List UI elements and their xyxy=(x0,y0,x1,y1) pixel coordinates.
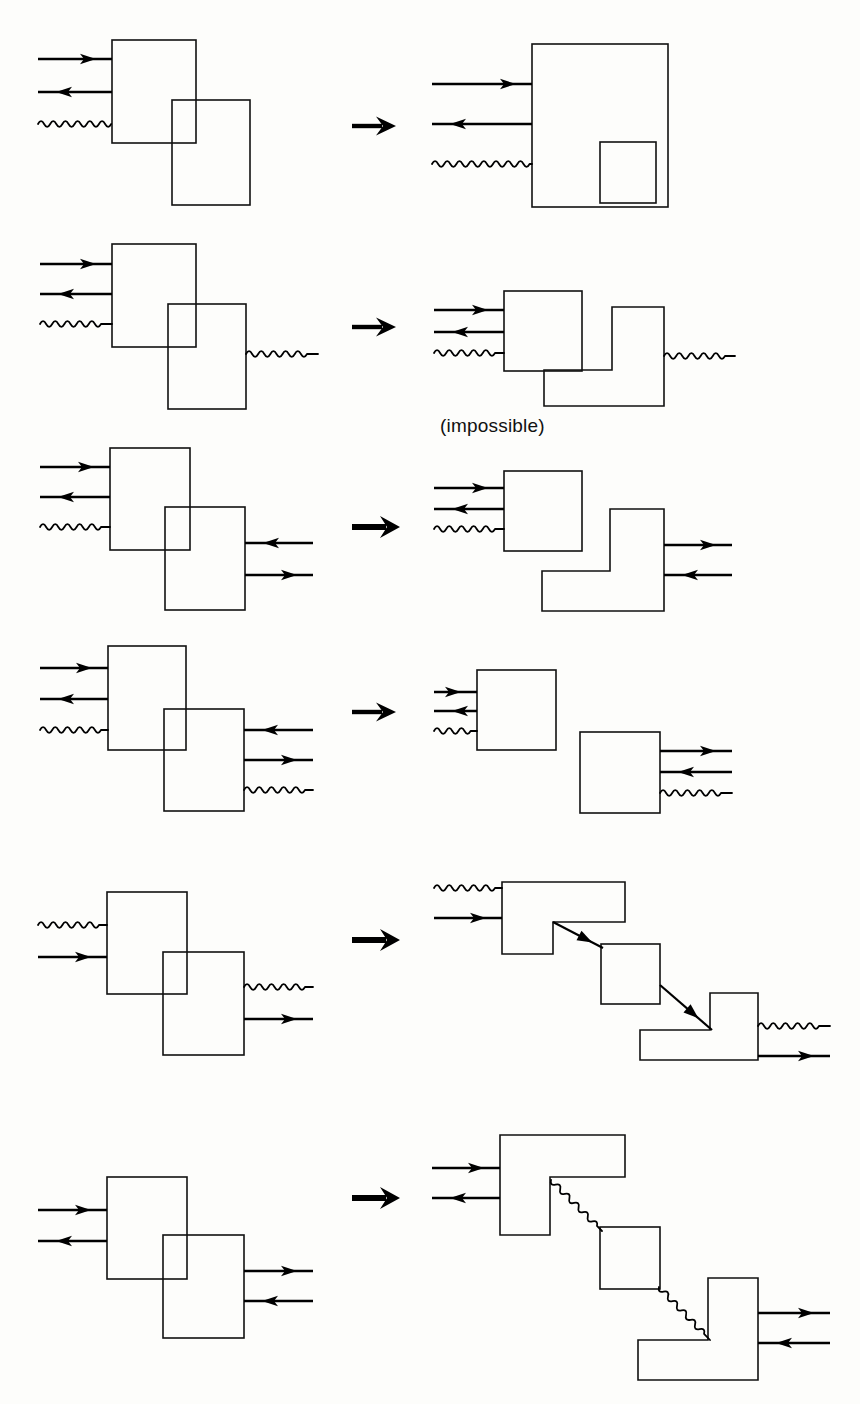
input-wave xyxy=(38,922,107,928)
first-square xyxy=(477,670,556,750)
upper-box xyxy=(108,646,186,750)
output-wave xyxy=(660,790,732,796)
square-box xyxy=(504,471,582,551)
row-3 xyxy=(40,448,732,611)
lower-box xyxy=(163,1235,244,1338)
inner-box xyxy=(600,142,656,203)
output-wave xyxy=(244,984,313,990)
input-wave xyxy=(434,885,502,891)
input-wave xyxy=(434,526,504,532)
row-3-right-diagram xyxy=(434,471,732,611)
input-wave xyxy=(432,161,532,167)
row-5 xyxy=(38,882,830,1061)
input-wave xyxy=(434,728,477,734)
impossible-label: (impossible) xyxy=(440,415,545,436)
output-wave xyxy=(664,353,735,359)
row-4-left-diagram xyxy=(40,646,313,811)
diagonal-wave-lower xyxy=(659,1287,710,1340)
row-4-transform-arrow[interactable] xyxy=(352,703,396,722)
diagonal-wave-upper xyxy=(551,1180,602,1231)
row-2-right-diagram xyxy=(434,291,735,406)
lower-box xyxy=(165,507,245,610)
second-square xyxy=(580,732,660,813)
row-6-left-diagram xyxy=(38,1177,313,1338)
input-wave xyxy=(38,121,111,127)
row-4-right-diagram xyxy=(434,670,732,813)
lower-box xyxy=(164,709,244,811)
lower-box xyxy=(172,100,250,205)
row-5-left-diagram xyxy=(38,892,313,1055)
row-2 xyxy=(40,244,735,409)
row-3-left-diagram xyxy=(40,448,313,610)
upper-box xyxy=(107,1177,187,1279)
row-1-left-diagram xyxy=(38,40,250,205)
diagonal-arrow-upper-shaft xyxy=(553,922,603,948)
row-5-right-diagram xyxy=(434,882,830,1061)
upper-box xyxy=(112,40,196,143)
output-wave xyxy=(758,1023,830,1029)
output-wave xyxy=(244,787,313,793)
upper-box xyxy=(107,892,187,994)
diagonal-arrow-upper-head xyxy=(577,931,593,943)
input-wave xyxy=(40,727,108,733)
row-3-transform-arrow[interactable] xyxy=(352,516,400,538)
upper-box xyxy=(110,448,190,550)
upper-l-shape xyxy=(500,1135,625,1235)
row-2-transform-arrow[interactable] xyxy=(352,318,396,337)
row-6-right-diagram xyxy=(432,1135,830,1380)
input-wave xyxy=(40,321,112,327)
row-1 xyxy=(38,40,668,207)
row-5-transform-arrow[interactable] xyxy=(352,929,400,951)
row-1-right-diagram xyxy=(432,44,668,207)
lower-t-shape xyxy=(640,993,758,1060)
upper-box xyxy=(112,244,196,347)
row-6-transform-arrow[interactable] xyxy=(352,1187,400,1209)
diagonal-arrow-lower-shaft xyxy=(660,985,712,1030)
l-shape xyxy=(542,509,664,611)
square-box xyxy=(504,291,582,371)
input-wave xyxy=(40,524,110,530)
middle-square xyxy=(600,1227,660,1289)
figure-canvas: (impossible) xyxy=(0,0,860,1404)
input-wave xyxy=(434,350,504,356)
output-wave xyxy=(246,351,318,357)
row-6 xyxy=(38,1135,830,1380)
l-shape xyxy=(544,307,664,406)
lower-box xyxy=(163,952,244,1055)
row-2-left-diagram xyxy=(40,244,318,409)
row-4 xyxy=(40,646,732,813)
middle-square xyxy=(601,944,660,1004)
row-1-transform-arrow[interactable] xyxy=(352,117,396,136)
diagram-svg: (impossible) xyxy=(0,0,860,1404)
lower-box xyxy=(168,304,246,409)
